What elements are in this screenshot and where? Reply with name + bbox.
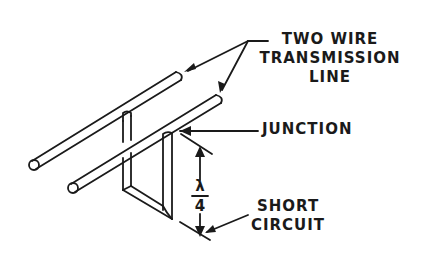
arrowhead-short-circuit bbox=[205, 225, 216, 233]
denominator-four: 4 bbox=[192, 197, 208, 215]
short-circuit-bar bbox=[123, 186, 172, 219]
label-short-circuit-2: CIRCUIT bbox=[248, 216, 328, 235]
lambda-symbol: λ bbox=[192, 177, 208, 195]
label-short-circuit-1: SHORT bbox=[248, 197, 328, 216]
label-short-circuit: SHORT CIRCUIT bbox=[248, 197, 328, 235]
leader-transmission-line-1 bbox=[188, 41, 248, 71]
dimension-top-extension bbox=[181, 134, 212, 154]
back-wire bbox=[29, 72, 182, 170]
label-transmission-line: TWO WIRE TRANSMISSION LINE bbox=[250, 30, 410, 87]
label-transmission-line-3: LINE bbox=[250, 68, 410, 87]
stub-right-leg bbox=[163, 132, 172, 219]
label-transmission-line-2: TRANSMISSION bbox=[250, 49, 410, 68]
dimension-bottom-extension bbox=[180, 222, 210, 240]
label-junction: JUNCTION bbox=[262, 120, 352, 139]
label-transmission-line-1: TWO WIRE bbox=[250, 30, 410, 49]
